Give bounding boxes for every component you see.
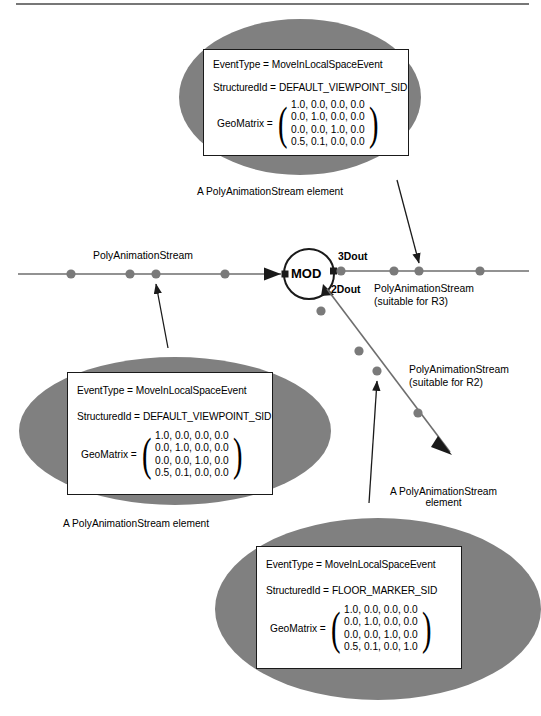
bottom-callout-matrix: GeoMatrix = ( 1.0, 0.0, 0.0, 0.0 0.0, 1.… [270,604,452,654]
matrix-row: 0.5, 0.1, 0.0, 0.0 [155,467,229,479]
matrix-row: 0.0, 1.0, 0.0, 0.0 [291,111,365,123]
left-callout-caption: A PolyAnimationStream element [63,518,209,529]
r2-stream-node [413,408,422,417]
matrix-row: 0.0, 0.0, 1.0, 0.0 [344,629,418,641]
r3-stream-node [389,266,398,275]
eventtype-value: MoveInLocalSpaceEvent [136,385,247,396]
matrix-row: 0.5, 0.1, 0.0, 0.0 [291,136,365,148]
left-callout-structuredid-row: StructuredId = DEFAULT_VIEWPOINT_SID [77,411,263,422]
geomatrix-label: GeoMatrix = [217,118,273,129]
r2-stream-arrowhead [431,436,452,455]
r3-stream-label-line1: PolyAnimationStream [374,283,474,296]
top-callout-eventtype-row: EventType = MoveInLocalSpaceEvent [213,59,399,70]
r2-stream-node [372,366,381,375]
left-callout-matrix: GeoMatrix = ( 1.0, 0.0, 0.0, 0.0 0.0, 1.… [81,430,263,480]
matrix-row: 0.0, 0.0, 1.0, 0.0 [155,455,229,467]
r2-stream-label: PolyAnimationStream (suitable for R2) [409,364,509,389]
mod-node-label: MOD [291,266,321,281]
port-3dout-label: 3Dout [338,251,367,262]
mod-input-port [282,271,289,278]
r2-stream-node [316,306,325,315]
r2-stream-label-line1: PolyAnimationStream [409,364,509,377]
matrix-right-paren: ) [369,104,379,144]
bottom-callout-caption-line1: A PolyAnimationStream [390,486,497,497]
matrix-row: 0.0, 0.0, 1.0, 0.0 [291,124,365,136]
structuredid-value: FLOOR_MARKER_SID [332,585,437,596]
stream-node [151,269,160,278]
matrix-row: 1.0, 0.0, 0.0, 0.0 [291,99,365,111]
bottom-callout-pointer [369,381,377,503]
r2-stream-label-line2: (suitable for R2) [409,377,509,390]
top-callout-pointer [397,180,419,263]
left-callout-eventtype-row: EventType = MoveInLocalSpaceEvent [77,385,263,396]
bottom-callout-structuredid-row: StructuredId = FLOOR_MARKER_SID [266,585,452,596]
matrix-left-paren: ( [142,435,152,475]
bottom-callout-caption: A PolyAnimationStream element [390,486,497,508]
r3-stream-node [475,266,484,275]
matrix-row: 1.0, 0.0, 0.0, 0.0 [155,430,229,442]
top-callout-matrix: GeoMatrix = ( 1.0, 0.0, 0.0, 0.0 0.0, 1.… [217,99,399,149]
eventtype-value: MoveInLocalSpaceEvent [272,59,383,70]
r3-stream-label-line2: (suitable for R3) [374,296,474,309]
geomatrix-label: GeoMatrix = [270,623,326,634]
matrix-row: 0.5, 0.1, 0.0, 1.0 [344,641,418,653]
input-stream-label: PolyAnimationStream [93,250,193,263]
bottom-callout-eventtype-row: EventType = MoveInLocalSpaceEvent [266,559,452,570]
input-stream-arrowhead [264,268,281,281]
bottom-callout-box: EventType = MoveInLocalSpaceEvent Struct… [256,546,462,669]
matrix-left-paren: ( [278,104,288,144]
eventtype-label: EventType = [77,385,133,396]
r2-stream-node [354,346,363,355]
left-callout-pointer [156,284,168,348]
port-2dout-label: 2Dout [331,284,360,295]
top-callout-caption: A PolyAnimationStream element [197,186,343,197]
matrix-left-paren: ( [331,609,341,649]
top-callout-structuredid-row: StructuredId = DEFAULT_VIEWPOINT_SID [213,82,399,93]
eventtype-label: EventType = [266,559,322,570]
mod-3dout-port [330,268,337,275]
eventtype-value: MoveInLocalSpaceEvent [325,559,436,570]
stream-node [220,269,229,278]
r3-stream-node [336,266,345,275]
matrix-rows: 1.0, 0.0, 0.0, 0.0 0.0, 1.0, 0.0, 0.0 0.… [154,430,230,480]
r3-stream-node [414,266,423,275]
matrix-row: 1.0, 0.0, 0.0, 0.0 [344,604,418,616]
top-callout-box: EventType = MoveInLocalSpaceEvent Struct… [203,49,409,156]
matrix-row: 0.0, 1.0, 0.0, 0.0 [155,442,229,454]
structuredid-label: StructuredId = [266,585,329,596]
stream-node [125,269,134,278]
geomatrix-label: GeoMatrix = [81,449,137,460]
matrix-right-paren: ) [233,435,243,475]
matrix-right-paren: ) [422,609,432,649]
matrix-rows: 1.0, 0.0, 0.0, 0.0 0.0, 1.0, 0.0, 0.0 0.… [343,604,419,654]
bottom-callout-caption-line2: element [390,497,497,508]
eventtype-label: EventType = [213,59,269,70]
diagram-canvas: EventType = MoveInLocalSpaceEvent Struct… [0,0,541,716]
structuredid-value: DEFAULT_VIEWPOINT_SID [279,82,407,93]
r3-stream-label: PolyAnimationStream (suitable for R3) [374,283,474,308]
left-callout-box: EventType = MoveInLocalSpaceEvent Struct… [67,372,273,495]
matrix-rows: 1.0, 0.0, 0.0, 0.0 0.0, 1.0, 0.0, 0.0 0.… [290,99,366,149]
matrix-row: 0.0, 1.0, 0.0, 0.0 [344,616,418,628]
structuredid-label: StructuredId = [213,82,276,93]
structuredid-label: StructuredId = [77,411,140,422]
stream-node [66,269,75,278]
structuredid-value: DEFAULT_VIEWPOINT_SID [143,411,271,422]
